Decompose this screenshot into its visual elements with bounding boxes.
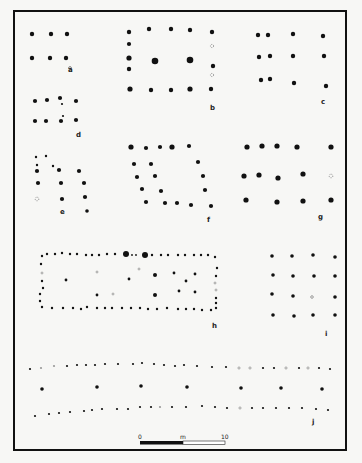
label-b: b bbox=[210, 104, 215, 112]
label-d: d bbox=[76, 131, 81, 139]
panel-g bbox=[241, 143, 333, 204]
panel-j bbox=[29, 362, 331, 417]
panel-h bbox=[39, 251, 218, 311]
panel-b bbox=[126, 27, 215, 92]
label-h: h bbox=[212, 322, 217, 330]
panel-e bbox=[35, 155, 89, 213]
panel-i bbox=[270, 253, 337, 318]
label-j: j bbox=[311, 418, 314, 426]
panel-a bbox=[30, 32, 72, 70]
scale-start-label: 0 bbox=[138, 433, 142, 440]
label-g: g bbox=[318, 213, 323, 221]
panel-c bbox=[256, 32, 328, 88]
label-i: i bbox=[325, 330, 327, 338]
scale-unit-label: m bbox=[180, 433, 186, 440]
label-f: f bbox=[207, 216, 211, 224]
panel-f bbox=[128, 144, 213, 208]
label-c: c bbox=[321, 98, 325, 106]
post-hole-plans: a b c d e f bbox=[0, 0, 362, 463]
scale-bar: 0 m 10 bbox=[138, 433, 229, 445]
panel-d bbox=[33, 96, 78, 123]
scale-end-label: 10 bbox=[221, 433, 229, 440]
label-a: a bbox=[68, 66, 73, 74]
label-e: e bbox=[60, 208, 65, 216]
